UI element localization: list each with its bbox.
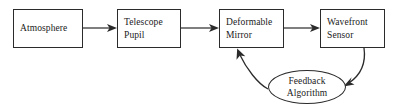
connector-deformable-mirror-to-wavefront-sensor xyxy=(284,24,320,32)
node-feedback-algorithm-line-2: Algorithm xyxy=(287,87,327,100)
connector-feedback-algorithm-to-deformable-mirror xyxy=(237,49,269,90)
node-telescope-pupil[interactable]: Telescope Pupil xyxy=(117,9,181,48)
node-atmosphere[interactable]: Atmosphere xyxy=(13,9,83,48)
node-deformable-mirror[interactable]: Deformable Mirror xyxy=(219,9,284,48)
connector-telescope-pupil-to-deformable-mirror xyxy=(181,24,219,32)
node-wavefront-sensor[interactable]: Wavefront Sensor xyxy=(320,9,385,48)
node-telescope-pupil-line-1: Telescope xyxy=(124,16,163,29)
diagram-canvas: Atmosphere Telescope Pupil Deformable Mi… xyxy=(0,0,400,106)
node-deformable-mirror-line-1: Deformable xyxy=(226,16,272,29)
node-feedback-algorithm-line-1: Feedback xyxy=(288,75,325,88)
node-atmosphere-line-1: Atmosphere xyxy=(20,22,67,35)
node-feedback-algorithm[interactable]: Feedback Algorithm xyxy=(268,70,346,104)
node-deformable-mirror-line-2: Mirror xyxy=(226,29,252,42)
node-telescope-pupil-line-2: Pupil xyxy=(124,29,145,42)
connector-atmosphere-to-telescope-pupil xyxy=(83,24,117,32)
node-wavefront-sensor-line-2: Sensor xyxy=(327,29,353,42)
connector-wavefront-sensor-to-feedback-algorithm xyxy=(344,48,365,87)
node-wavefront-sensor-line-1: Wavefront xyxy=(327,16,368,29)
